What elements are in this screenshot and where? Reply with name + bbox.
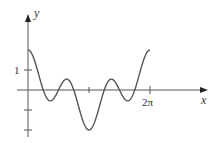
axes — [17, 14, 208, 137]
ticks — [24, 70, 150, 130]
function-plot: y x 1 2π — [0, 0, 217, 143]
x-tick-label-2pi: 2π — [142, 96, 154, 108]
y-axis-label: y — [33, 6, 40, 20]
x-axis-label: x — [200, 93, 207, 107]
y-axis-arrow-icon — [25, 14, 31, 22]
y-tick-label-1: 1 — [14, 64, 20, 76]
